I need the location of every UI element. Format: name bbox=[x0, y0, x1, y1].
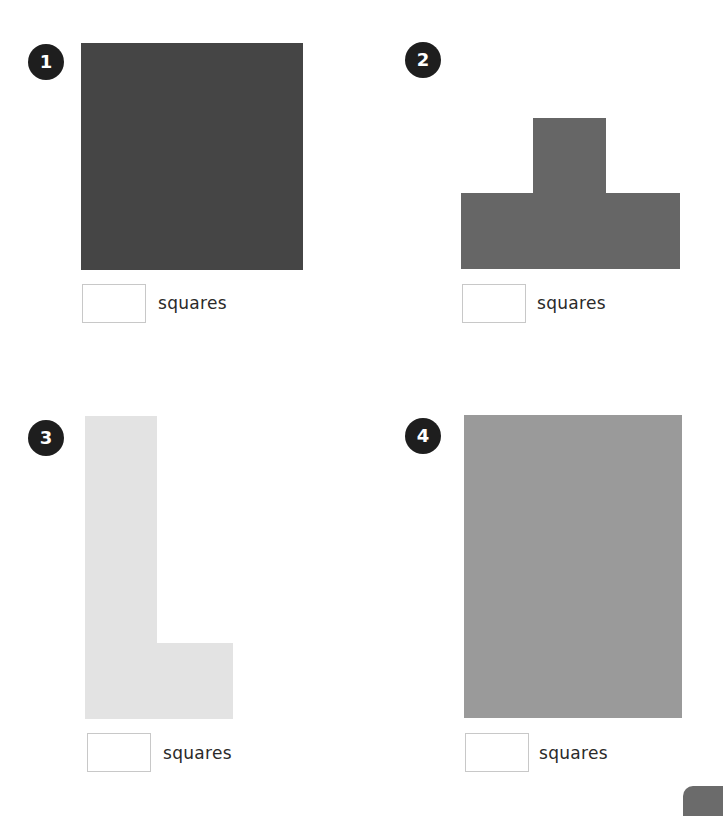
page-number-tab bbox=[683, 786, 723, 816]
shape-rectangle bbox=[464, 415, 682, 718]
number-badge-2: 2 bbox=[405, 42, 441, 78]
number-badge-3: 3 bbox=[28, 420, 64, 456]
shape-l-foot bbox=[156, 643, 233, 719]
shape-square bbox=[81, 43, 303, 270]
unit-label-3: squares bbox=[163, 743, 232, 763]
number-badge-1: 1 bbox=[28, 44, 64, 80]
answer-box-1[interactable] bbox=[82, 284, 146, 323]
number-badge-4: 4 bbox=[405, 418, 441, 454]
unit-label-1: squares bbox=[158, 293, 227, 313]
unit-label-4: squares bbox=[539, 743, 608, 763]
shape-t-bar bbox=[461, 193, 680, 269]
answer-box-4[interactable] bbox=[465, 733, 529, 772]
answer-box-3[interactable] bbox=[87, 733, 151, 772]
answer-box-2[interactable] bbox=[462, 284, 526, 323]
shape-t-top bbox=[533, 118, 606, 194]
shape-l-stem bbox=[85, 416, 157, 719]
unit-label-2: squares bbox=[537, 293, 606, 313]
